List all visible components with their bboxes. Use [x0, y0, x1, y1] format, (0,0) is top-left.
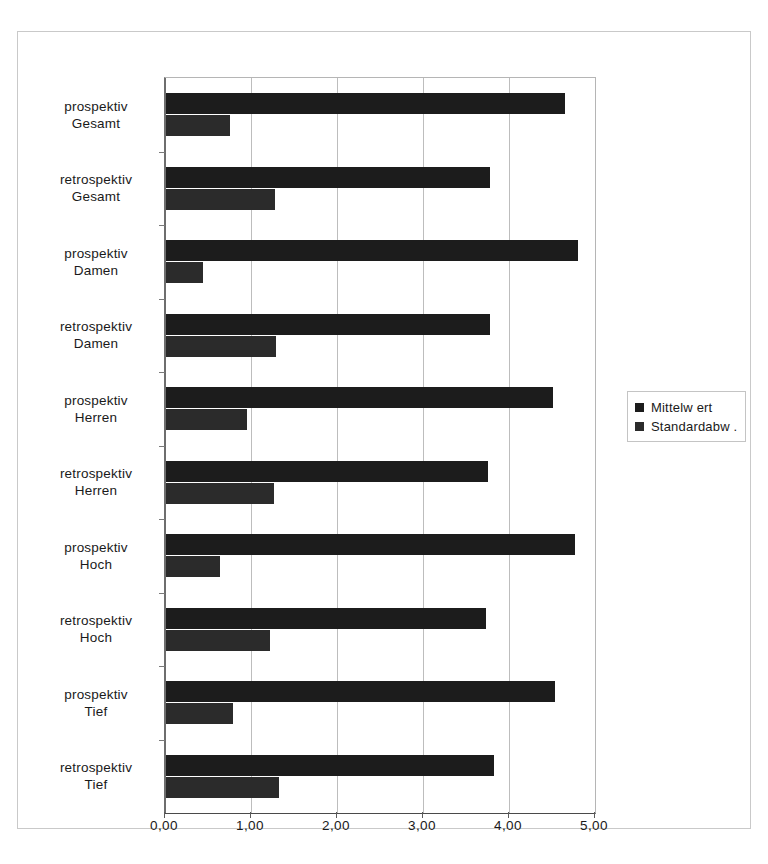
category-label-line: Damen: [37, 335, 155, 352]
y-axis-category-label: retrospektivDamen: [37, 318, 155, 352]
legend-entry: Mittelw ert: [635, 400, 737, 415]
chart-bar: [166, 483, 274, 504]
y-axis-tick-mark: [159, 225, 165, 226]
x-axis-tick-label: 5,00: [580, 818, 608, 833]
x-axis-tick-label: 4,00: [494, 818, 522, 833]
legend-entry: Standardabw .: [635, 419, 737, 434]
chart-category-row: retrospektivHoch: [165, 593, 595, 667]
chart-bar: [166, 755, 494, 776]
x-axis-tick-labels: 0,001,002,003,004,005,00: [164, 818, 596, 844]
category-label-line: Damen: [37, 262, 155, 279]
y-axis-category-label: prospektivDamen: [37, 245, 155, 279]
category-label-line: retrospektiv: [37, 612, 155, 629]
x-axis-tick-label: 3,00: [408, 818, 436, 833]
legend-label: Mittelw ert: [651, 400, 712, 415]
chart-bar: [166, 777, 279, 798]
category-label-line: prospektiv: [37, 245, 155, 262]
chart-legend: Mittelw ertStandardabw .: [627, 391, 746, 442]
y-axis-tick-mark: [159, 593, 165, 594]
y-axis-category-label: prospektivHerren: [37, 392, 155, 426]
gridline: [595, 78, 596, 813]
category-label-line: Herren: [37, 409, 155, 426]
y-axis-category-label: prospektivHoch: [37, 539, 155, 573]
chart-category-row: retrospektivTief: [165, 740, 595, 814]
y-axis-category-label: prospektivGesamt: [37, 98, 155, 132]
y-axis-category-label: retrospektivHoch: [37, 612, 155, 646]
y-axis-category-label: retrospektivTief: [37, 759, 155, 793]
chart-bar: [166, 556, 220, 577]
category-label-line: Gesamt: [37, 188, 155, 205]
y-axis-category-label: prospektivTief: [37, 686, 155, 720]
category-label-line: Tief: [37, 703, 155, 720]
chart-category-row: prospektivHerren: [165, 372, 595, 446]
y-axis-tick-mark: [159, 446, 165, 447]
x-axis-tick-label: 2,00: [322, 818, 350, 833]
category-label-line: retrospektiv: [37, 171, 155, 188]
chart-category-row: retrospektivHerren: [165, 446, 595, 520]
chart-bar: [166, 240, 578, 261]
chart-bar: [166, 703, 233, 724]
chart-bar: [166, 681, 555, 702]
y-axis-tick-mark: [159, 519, 165, 520]
chart-category-row: retrospektivDamen: [165, 299, 595, 373]
chart-bar: [166, 387, 553, 408]
category-label-line: prospektiv: [37, 539, 155, 556]
category-label-line: Tief: [37, 776, 155, 793]
chart-bar: [166, 409, 247, 430]
category-label-line: retrospektiv: [37, 759, 155, 776]
category-label-line: Gesamt: [37, 115, 155, 132]
y-axis-tick-mark: [159, 299, 165, 300]
plot-area: prospektivGesamtretrospektivGesamtprospe…: [164, 77, 596, 814]
category-label-line: Herren: [37, 482, 155, 499]
chart-bar: [166, 189, 275, 210]
category-label-line: retrospektiv: [37, 318, 155, 335]
category-label-line: prospektiv: [37, 686, 155, 703]
chart-bar: [166, 534, 575, 555]
chart-bar: [166, 461, 488, 482]
category-label-line: Hoch: [37, 629, 155, 646]
chart-bar: [166, 262, 203, 283]
chart-category-row: prospektivHoch: [165, 519, 595, 593]
legend-swatch-icon: [635, 422, 644, 431]
chart-bar: [166, 608, 486, 629]
category-label-line: prospektiv: [37, 98, 155, 115]
chart-category-row: retrospektivGesamt: [165, 152, 595, 226]
y-axis-category-label: retrospektivGesamt: [37, 171, 155, 205]
chart-bar: [166, 630, 270, 651]
chart-bar: [166, 167, 490, 188]
legend-swatch-icon: [635, 403, 644, 412]
y-axis-tick-mark: [159, 372, 165, 373]
chart-bar: [166, 336, 276, 357]
legend-label: Standardabw .: [651, 419, 737, 434]
y-axis-tick-mark: [159, 666, 165, 667]
chart-bar: [166, 93, 565, 114]
y-axis-tick-mark: [159, 152, 165, 153]
x-axis-tick-label: 0,00: [150, 818, 178, 833]
chart-bar: [166, 314, 490, 335]
chart-bar: [166, 115, 230, 136]
category-label-line: retrospektiv: [37, 465, 155, 482]
y-axis-category-label: retrospektivHerren: [37, 465, 155, 499]
x-axis-tick-label: 1,00: [236, 818, 264, 833]
y-axis-tick-mark: [159, 740, 165, 741]
category-label-line: prospektiv: [37, 392, 155, 409]
chart-category-row: prospektivGesamt: [165, 78, 595, 152]
category-label-line: Hoch: [37, 556, 155, 573]
chart-frame: prospektivGesamtretrospektivGesamtprospe…: [17, 31, 751, 829]
chart-category-row: prospektivTief: [165, 666, 595, 740]
chart-category-row: prospektivDamen: [165, 225, 595, 299]
